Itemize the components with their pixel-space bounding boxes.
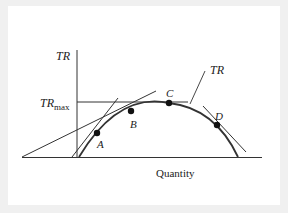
total-revenue-diagram: TR TRmax TR A B C D Quantity [0, 0, 288, 213]
tangent-at-a [72, 98, 118, 157]
trmax-label-main: TR [40, 96, 55, 110]
point-b [128, 108, 134, 114]
trmax-label: TRmax [40, 96, 70, 112]
point-c-label: C [166, 87, 174, 99]
trmax-label-sub: max [54, 102, 70, 112]
curve-label: TR [210, 63, 225, 77]
x-axis-label: Quantity [156, 167, 195, 179]
tr-label-pointer [190, 71, 205, 104]
point-b-label: B [130, 118, 137, 130]
point-a-label: A [96, 138, 104, 150]
point-c [166, 100, 172, 106]
point-d [214, 122, 220, 128]
y-axis-label: TR [56, 49, 71, 63]
point-d-label: D [214, 110, 223, 122]
tangent-at-d [203, 106, 246, 152]
point-a [94, 130, 100, 136]
